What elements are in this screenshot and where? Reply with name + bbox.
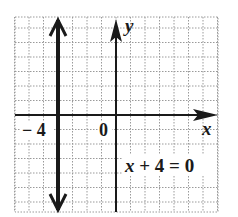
coordinate-plane: y x − 4 0 x + 4 = 0 — [0, 0, 238, 217]
tick-label-0: 0 — [99, 120, 108, 140]
x-axis-label: x — [201, 118, 212, 139]
equation-label: x + 4 = 0 — [124, 155, 194, 176]
tick-label-neg4: − 4 — [22, 120, 46, 140]
y-axis-label: y — [123, 15, 134, 36]
equation-rest: + 4 = 0 — [135, 155, 195, 176]
equation-var: x — [124, 155, 135, 176]
